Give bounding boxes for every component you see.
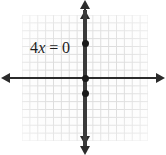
x-axis-left-arrow-icon <box>1 73 10 83</box>
equation-variable: x <box>38 39 45 56</box>
equation-value: 0 <box>62 39 70 56</box>
y-axis-down-arrow-icon <box>80 146 90 155</box>
equation-label: 4x = 0 <box>30 40 70 56</box>
coordinate-plane-figure: 4x = 0 <box>0 0 166 155</box>
plotted-point-upper <box>82 40 89 47</box>
plotted-point-lower <box>82 90 89 97</box>
equation-relation: = <box>49 39 58 56</box>
plotted-point-origin <box>82 75 89 82</box>
y-axis-up-arrow-icon <box>80 0 90 9</box>
x-axis-right-arrow-icon <box>156 73 165 83</box>
